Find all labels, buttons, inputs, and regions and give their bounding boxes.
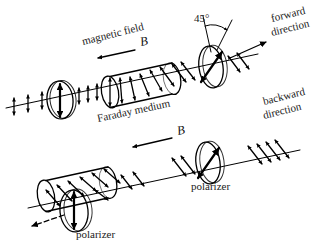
faraday-isolator-diagram: magnetic field B 45° forward direction F… — [0, 0, 330, 246]
figure-root: magnetic field B 45° forward direction F… — [0, 0, 330, 246]
canvas-background — [0, 0, 330, 246]
polarizer-label-bottom: polarizer — [76, 228, 115, 240]
polarizer-label-top: polarizer — [191, 180, 230, 192]
angle-label: 45° — [194, 12, 209, 24]
